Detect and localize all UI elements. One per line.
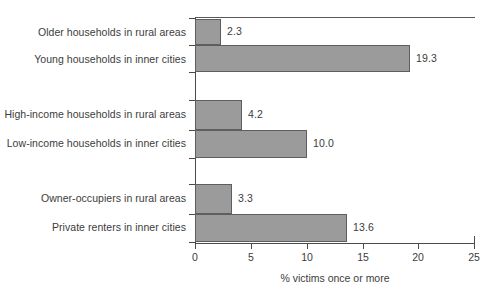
bar-value-5: 13.6	[353, 221, 374, 233]
category-axis-labels: Older households in rural areas Young ho…	[0, 0, 186, 295]
category-label-5: Private renters in inner cities	[52, 221, 186, 233]
category-label-0: Older households in rural areas	[38, 26, 186, 38]
x-axis-tick-2	[307, 244, 308, 249]
x-axis-tick-label-4: 20	[412, 251, 424, 263]
bar-value-1: 19.3	[416, 52, 437, 64]
bar-5	[195, 214, 347, 242]
plot-top-rule	[195, 17, 475, 18]
bar-4	[195, 184, 232, 214]
x-axis-tick-label-3: 15	[357, 251, 369, 263]
bar-0	[195, 19, 221, 45]
category-label-2: High-income households in rural areas	[4, 108, 186, 120]
bar-value-2: 4.2	[248, 108, 263, 120]
bar-3	[195, 130, 307, 158]
x-axis-tick-4	[418, 244, 419, 249]
bar-value-4: 3.3	[238, 192, 253, 204]
x-axis-tick-label-2: 10	[301, 251, 313, 263]
x-axis-line	[195, 243, 475, 244]
x-axis-tick-label-5: 25	[468, 251, 480, 263]
x-axis-tick-0	[195, 244, 196, 249]
bar-1	[195, 45, 410, 72]
y-axis-tick-5	[189, 158, 195, 159]
x-axis-tick-5	[474, 244, 475, 249]
bar-2	[195, 100, 242, 130]
x-axis-title: % victims once or more	[195, 272, 475, 284]
bar-value-0: 2.3	[227, 25, 242, 37]
y-axis-tick-8	[189, 242, 195, 243]
category-label-3: Low-income households in inner cities	[7, 137, 186, 149]
x-axis-end-cap	[474, 236, 475, 244]
x-axis-tick-1	[251, 244, 252, 249]
x-axis-tick-label-1: 5	[248, 251, 254, 263]
bar-chart: Older households in rural areas Young ho…	[0, 0, 496, 295]
category-label-1: Young households in inner cities	[34, 53, 186, 65]
x-axis-tick-label-0: 0	[192, 251, 198, 263]
y-axis-tick-2	[189, 72, 195, 73]
bar-value-3: 10.0	[313, 137, 334, 149]
category-label-4: Owner-occupiers in rural areas	[41, 192, 186, 204]
x-axis-tick-3	[363, 244, 364, 249]
